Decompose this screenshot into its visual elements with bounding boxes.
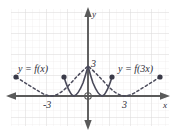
x-axis-name-label: x bbox=[162, 100, 167, 110]
graph-figure: y = f(x) y = f(3x) 3 -3 3 x y bbox=[0, 0, 176, 135]
y-axis-name-label: y bbox=[91, 9, 96, 19]
solid-curve-right-endpoint-dot bbox=[109, 74, 114, 79]
label-y-equals-f-of-3x: y = f(3x) bbox=[117, 63, 154, 75]
x-tick-label-3: 3 bbox=[121, 99, 127, 110]
dashed-curve-left-endpoint-dot bbox=[13, 74, 18, 79]
coordinate-plane: y = f(x) y = f(3x) 3 -3 3 x y bbox=[0, 0, 176, 135]
x-tick-label-negative-3: -3 bbox=[43, 99, 51, 110]
dashed-curve-right-endpoint-dot bbox=[157, 74, 162, 79]
solid-curve-left-endpoint-dot bbox=[61, 74, 66, 79]
y-tick-label-3: 3 bbox=[90, 58, 96, 69]
label-y-equals-f-of-x: y = f(x) bbox=[17, 63, 49, 75]
